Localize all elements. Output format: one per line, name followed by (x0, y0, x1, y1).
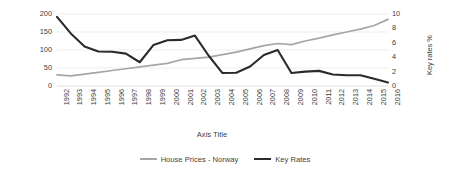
y-axis-right-tick-label: 4 (392, 53, 396, 61)
legend-label-house-prices: House Prices - Norway (161, 155, 239, 164)
x-axis-tick-label: 2016 (393, 89, 427, 123)
y-axis-left-ticks: 050100150200 (24, 14, 52, 86)
y-axis-right-tick-label: 2 (392, 68, 396, 76)
y-axis-right-title-container: Key rates % (424, 16, 438, 94)
y-axis-right-ticks: 0246810 (392, 14, 412, 86)
legend-swatch-icon-house-prices (140, 158, 157, 160)
x-axis-title-container: Axis Title (0, 130, 450, 139)
y-axis-left-tick-label: 100 (40, 46, 52, 54)
y-axis-left-tick-label: 50 (44, 64, 52, 72)
y-axis-right-title: Key rates % (425, 16, 437, 94)
chart-legend: House Prices - Norway Key Rates (0, 152, 450, 166)
y-axis-right-tick-label: 10 (392, 10, 400, 18)
x-axis-title: Axis Title (197, 130, 227, 139)
y-axis-left-tick-label: 150 (40, 28, 52, 36)
legend-swatch-icon-key-rates (254, 158, 271, 160)
x-axis-ticks: 1992199319941995199619971998199920002001… (57, 89, 388, 127)
legend-item-key-rates[interactable]: Key Rates (254, 155, 310, 164)
legend-item-house-prices-norway[interactable]: House Prices - Norway (140, 155, 239, 164)
y-axis-right-tick-label: 8 (392, 24, 396, 32)
legend-label-key-rates: Key Rates (275, 155, 310, 164)
chart-container: House price changes % Key rates % 050100… (0, 0, 450, 178)
y-axis-left-title-container: House price changes % (4, 8, 18, 100)
series-line-house-prices-norway (57, 19, 388, 76)
y-axis-left-tick-label: 200 (40, 10, 52, 18)
chart-svg (57, 14, 388, 86)
plot-area (57, 14, 388, 86)
y-axis-right-tick-label: 6 (392, 39, 396, 47)
y-axis-left-tick-label: 0 (48, 82, 52, 90)
